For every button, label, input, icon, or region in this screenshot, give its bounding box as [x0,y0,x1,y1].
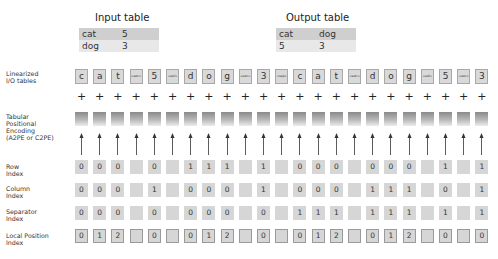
positional-encoding-bar [312,112,325,126]
plus-icon: + [475,92,488,102]
token-box: o [384,69,397,84]
token-box: a [93,69,106,84]
token-box: 3 [257,69,270,84]
row-index-cell [348,160,361,174]
plus-icon: + [239,92,252,102]
separator-index-cell: 0 [257,206,270,220]
separator-index-cell: 0 [93,206,106,220]
row-index-cell [275,160,288,174]
positional-encoding-bar [184,112,197,126]
plus-icon: + [293,92,306,102]
row-index-cell [130,160,143,174]
input-table-cell: 5 [119,28,159,40]
positional-encoding-bar [257,112,270,126]
column-index-cell [275,183,288,197]
column-index-cell [166,183,179,197]
token-box: <sep> [275,69,288,84]
row-index-cell: 1 [257,160,270,174]
positional-encoding-bar [166,112,179,126]
column-index-cell: 1 [384,183,397,197]
row-index-cell: 0 [148,160,161,174]
label-positional-encoding: Tabular Positional Encoding (A2PE or C2P… [6,113,54,141]
separator-index-cell: 0 [202,206,215,220]
separator-index-cell: 0 [221,206,234,220]
arrow-up-icon [184,133,197,155]
input-table-title: Input table [95,12,149,23]
row-index-cell: 1 [202,160,215,174]
input-table-cell: 3 [119,40,159,52]
column-index-cell: 0 [330,183,343,197]
row-index-cell [239,160,252,174]
arrow-up-icon [239,133,252,155]
input-table: cat 5 dog 3 [79,28,159,52]
positional-encoding-bar [239,112,252,126]
token-box: <eoc> [348,69,361,84]
token-box: <eoc> [239,69,252,84]
arrow-up-icon [130,133,143,155]
arrow-up-icon [148,133,161,155]
local-position-index-cell [275,229,288,243]
separator-index-cell: 1 [403,206,416,220]
column-index-cell: 0 [202,183,215,197]
arrow-up-icon [439,133,452,155]
plus-icon: + [130,92,143,102]
token-box: 5 [439,69,452,84]
positional-encoding-bar [475,112,488,126]
local-position-index-cell: 2 [221,229,234,243]
token-box: a [312,69,325,84]
row-index-cell: 0 [384,160,397,174]
arrow-up-icon [93,133,106,155]
column-index-cell: 1 [475,183,488,197]
separator-index-cell: 1 [330,206,343,220]
output-table-cell: 3 [316,40,356,52]
column-index-cell [130,183,143,197]
plus-icon: + [166,92,179,102]
local-position-index-cell: 1 [202,229,215,243]
token-box: d [366,69,379,84]
arrow-up-icon [475,133,488,155]
output-table-row: cat dog [276,28,356,40]
token-box: d [184,69,197,84]
arrow-up-icon [366,133,379,155]
local-position-index-cell: 0 [148,229,161,243]
arrow-up-icon [166,133,179,155]
separator-index-cell: 0 [184,206,197,220]
column-index-cell [457,183,470,197]
local-position-index-cell: 2 [330,229,343,243]
row-index-cell [457,160,470,174]
local-position-index-cell: 0 [184,229,197,243]
arrow-up-icon [421,133,434,155]
separator-index-cell: 1 [366,206,379,220]
output-table-row: 5 3 [276,40,356,52]
column-index-cell [421,183,434,197]
separator-index-cell [239,206,252,220]
arrow-up-icon [403,133,416,155]
arrow-up-icon [221,133,234,155]
row-index-cell: 0 [293,160,306,174]
token-box: o [202,69,215,84]
token-box: 3 [475,69,488,84]
positional-encoding-bar [439,112,452,126]
plus-icon: + [221,92,234,102]
label-local-position-index: Local Position Index [6,232,49,246]
arrow-up-icon [111,133,124,155]
input-table-cell: cat [79,28,119,40]
separator-index-cell: 1 [384,206,397,220]
local-position-index-cell: 0 [293,229,306,243]
positional-encoding-bar [330,112,343,126]
plus-icon: + [348,92,361,102]
arrow-up-icon [75,133,88,155]
column-index-cell: 0 [75,183,88,197]
local-position-index-cell: 0 [366,229,379,243]
separator-index-cell: 1 [439,206,452,220]
row-index-cell: 0 [366,160,379,174]
token-box: c [75,69,88,84]
row-index-cell: 1 [221,160,234,174]
plus-icon: + [93,92,106,102]
local-position-index-cell: 1 [93,229,106,243]
output-table-cell: 5 [276,40,316,52]
positional-encoding-bar [275,112,288,126]
positional-encoding-bar [221,112,234,126]
arrow-up-icon [257,133,270,155]
label-separator-index: Separator Index [6,208,37,222]
